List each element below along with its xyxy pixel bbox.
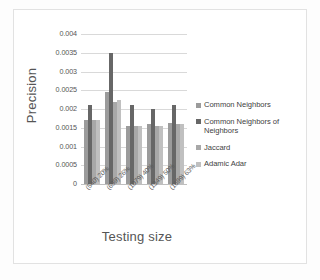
bar-group [84,34,100,184]
chart-legend: Common NeighborsCommon Neighbors of Neig… [196,100,308,176]
legend-swatch-icon [196,145,201,150]
legend-label: Jaccard [204,143,230,153]
y-axis-tick-label: 0 [31,180,77,188]
y-axis-tick-label: 0.0025 [31,86,77,94]
y-axis-tick-labels: 00.00050.0010.00150.0020.00250.0030.0035… [29,34,77,184]
y-axis-tick-label: 0.002 [31,105,77,113]
legend-item[interactable]: Jaccard [196,143,308,153]
bar-chart: Precision 00.00050.0010.00150.0020.00250… [0,0,320,280]
chart-page: Precision 00.00050.0010.00150.0020.00250… [0,0,320,280]
y-axis-tick-label: 0.0035 [31,49,77,57]
x-axis-title: Testing size [62,229,212,244]
y-axis-tick-label: 0.004 [31,30,77,38]
bar-group [126,34,142,184]
legend-label: Common Neighbors [204,100,271,110]
legend-item[interactable]: Common Neighbors [196,100,308,110]
legend-swatch-icon [196,103,201,108]
legend-item[interactable]: Adamic Adar [196,159,308,169]
legend-swatch-icon [196,162,201,167]
bar-group [105,34,121,184]
y-axis-tick-label: 0.001 [31,143,77,151]
legend-label: Common Neighbors of Neighbors [204,117,308,136]
y-axis-tick-label: 0.0005 [31,161,77,169]
legend-item[interactable]: Common Neighbors of Neighbors [196,117,308,136]
y-axis-tick-label: 0.003 [31,68,77,76]
y-axis-tick-label: 0.0015 [31,124,77,132]
legend-label: Adamic Adar [204,159,247,169]
x-axis-tick-labels: (540) 20%(699) 26%(1079) 40%(1349) 50%(1… [81,186,187,226]
legend-swatch-icon [196,119,201,124]
